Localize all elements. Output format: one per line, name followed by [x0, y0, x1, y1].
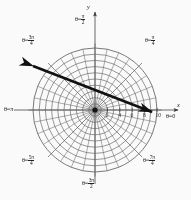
- y-axis-label: y: [87, 3, 90, 10]
- radial-tick-label: 4: [118, 112, 121, 118]
- fraction-denominator: 4: [28, 160, 34, 167]
- angle-value: 0: [172, 112, 175, 119]
- angle-fraction: π2: [81, 14, 84, 26]
- theta-pi-over-2: θ=π2: [75, 14, 85, 26]
- radial-tick-label: 8: [143, 112, 146, 118]
- theta-5pi-over-4: θ=5π4: [22, 155, 34, 167]
- angle-fraction: 3π2: [88, 178, 94, 190]
- fraction-denominator: 2: [88, 183, 94, 190]
- angle-fraction: 3π4: [28, 35, 34, 47]
- pole-origin-dot: [92, 107, 97, 112]
- fraction-denominator: 4: [28, 40, 34, 47]
- theta-3pi-over-2: θ=3π2: [82, 178, 94, 190]
- theta-7pi-over-4: θ=7π4: [143, 155, 155, 167]
- angle-fraction: 7π4: [149, 155, 155, 167]
- polar-diagram-figure: θ=π2θ=3π4θ=π4θ=πθ=0θ=5π4θ=7π4θ=3π2 24681…: [0, 0, 191, 200]
- radial-tick-label: 10: [155, 112, 161, 118]
- angle-fraction: π4: [151, 35, 154, 47]
- fraction-denominator: 4: [149, 160, 155, 167]
- x-axis-label: x: [177, 101, 180, 108]
- fraction-denominator: 2: [81, 19, 84, 26]
- radial-tick-label: 6: [131, 112, 134, 118]
- theta-3pi-over-4: θ=3π4: [22, 35, 34, 47]
- angle-fraction: 5π4: [28, 155, 34, 167]
- angle-value: π: [10, 105, 13, 112]
- polar-grid-canvas: [0, 0, 191, 200]
- fraction-denominator: 4: [151, 40, 154, 47]
- radial-tick-label: 2: [106, 112, 109, 118]
- theta-pi-over-4: θ=π4: [145, 35, 155, 47]
- theta-0: θ=0: [166, 113, 175, 119]
- theta-pi: θ=π: [4, 106, 13, 112]
